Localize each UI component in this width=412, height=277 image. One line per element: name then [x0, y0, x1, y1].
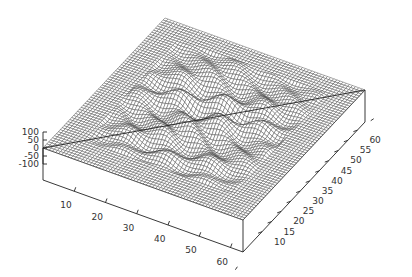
- y-tick-label: 35: [322, 186, 333, 196]
- x-tick-label: 50: [185, 245, 197, 255]
- x-tick-label: 60: [217, 257, 229, 267]
- y-tick-label: 40: [331, 176, 343, 186]
- y-tick-label: 10: [274, 237, 286, 247]
- x-tick-label: 40: [154, 234, 166, 244]
- y-tick-label: 45: [341, 166, 352, 176]
- x-tick-label: 20: [92, 212, 104, 222]
- z-tick-label: -100: [19, 159, 40, 169]
- z-axis: 100500-50-100: [19, 127, 47, 169]
- y-tick-label: 25: [303, 206, 314, 216]
- surface-plot: 100500-50-100 102030405060 1015202530354…: [0, 0, 412, 277]
- y-tick-label: 20: [293, 216, 305, 226]
- x-tick-label: 30: [123, 223, 135, 233]
- y-tick-label: 60: [369, 135, 381, 145]
- y-tick-label: 50: [350, 155, 362, 165]
- x-tick-label: 10: [60, 200, 72, 210]
- y-tick-label: 55: [360, 145, 371, 155]
- y-tick-label: 15: [284, 227, 295, 237]
- y-tick-label: 30: [312, 196, 324, 206]
